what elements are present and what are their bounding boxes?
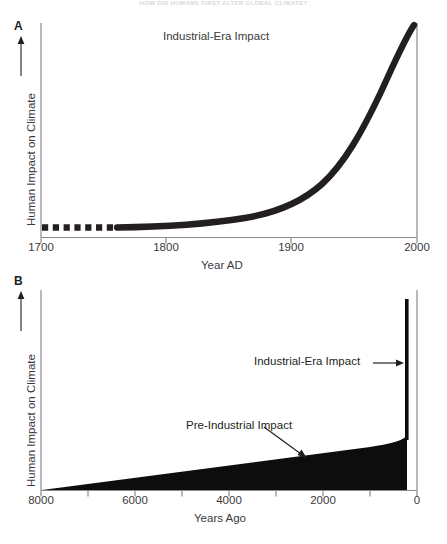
arrow-right-icon	[373, 359, 404, 366]
panel-b-xtick-2: 4000	[209, 495, 249, 507]
panel-b-pre-industrial-area	[42, 436, 407, 490]
panel-b-xtick-3: 2000	[303, 495, 343, 507]
panel-b-xtick-0: 8000	[21, 495, 61, 507]
panel-a-solid-series	[117, 25, 414, 228]
panel-a-xtick-2: 1900	[271, 242, 311, 254]
panel-b-annotation-pre-industrial: Pre-Industrial Impact	[186, 420, 292, 432]
panel-b-xtick-4: 0	[403, 495, 431, 507]
panel-b-annotation-industrial: Industrial-Era Impact	[254, 356, 360, 368]
panel-a-xtick-0: 1700	[21, 242, 61, 254]
panel-a-xtick-3: 2000	[397, 242, 437, 254]
panel-b: B Human Impact on Climate	[0, 272, 447, 544]
panel-b-x-axis-label: Years Ago	[194, 513, 246, 525]
arrow-down-right-icon	[264, 427, 307, 459]
panel-a-plot	[0, 14, 447, 264]
panel-b-industrial-spike	[405, 299, 409, 440]
panel-a: A Human Impact on Climate Industrial-Era…	[0, 14, 447, 264]
panel-a-x-axis-label: Year AD	[201, 260, 243, 272]
panel-a-xtick-1: 1800	[146, 242, 186, 254]
panel-b-xtick-1: 6000	[115, 495, 155, 507]
figure-human-impact-on-climate: HOW DID HUMANS FIRST ALTER GLOBAL CLIMAT…	[0, 0, 447, 544]
running-header: HOW DID HUMANS FIRST ALTER GLOBAL CLIMAT…	[0, 0, 447, 8]
